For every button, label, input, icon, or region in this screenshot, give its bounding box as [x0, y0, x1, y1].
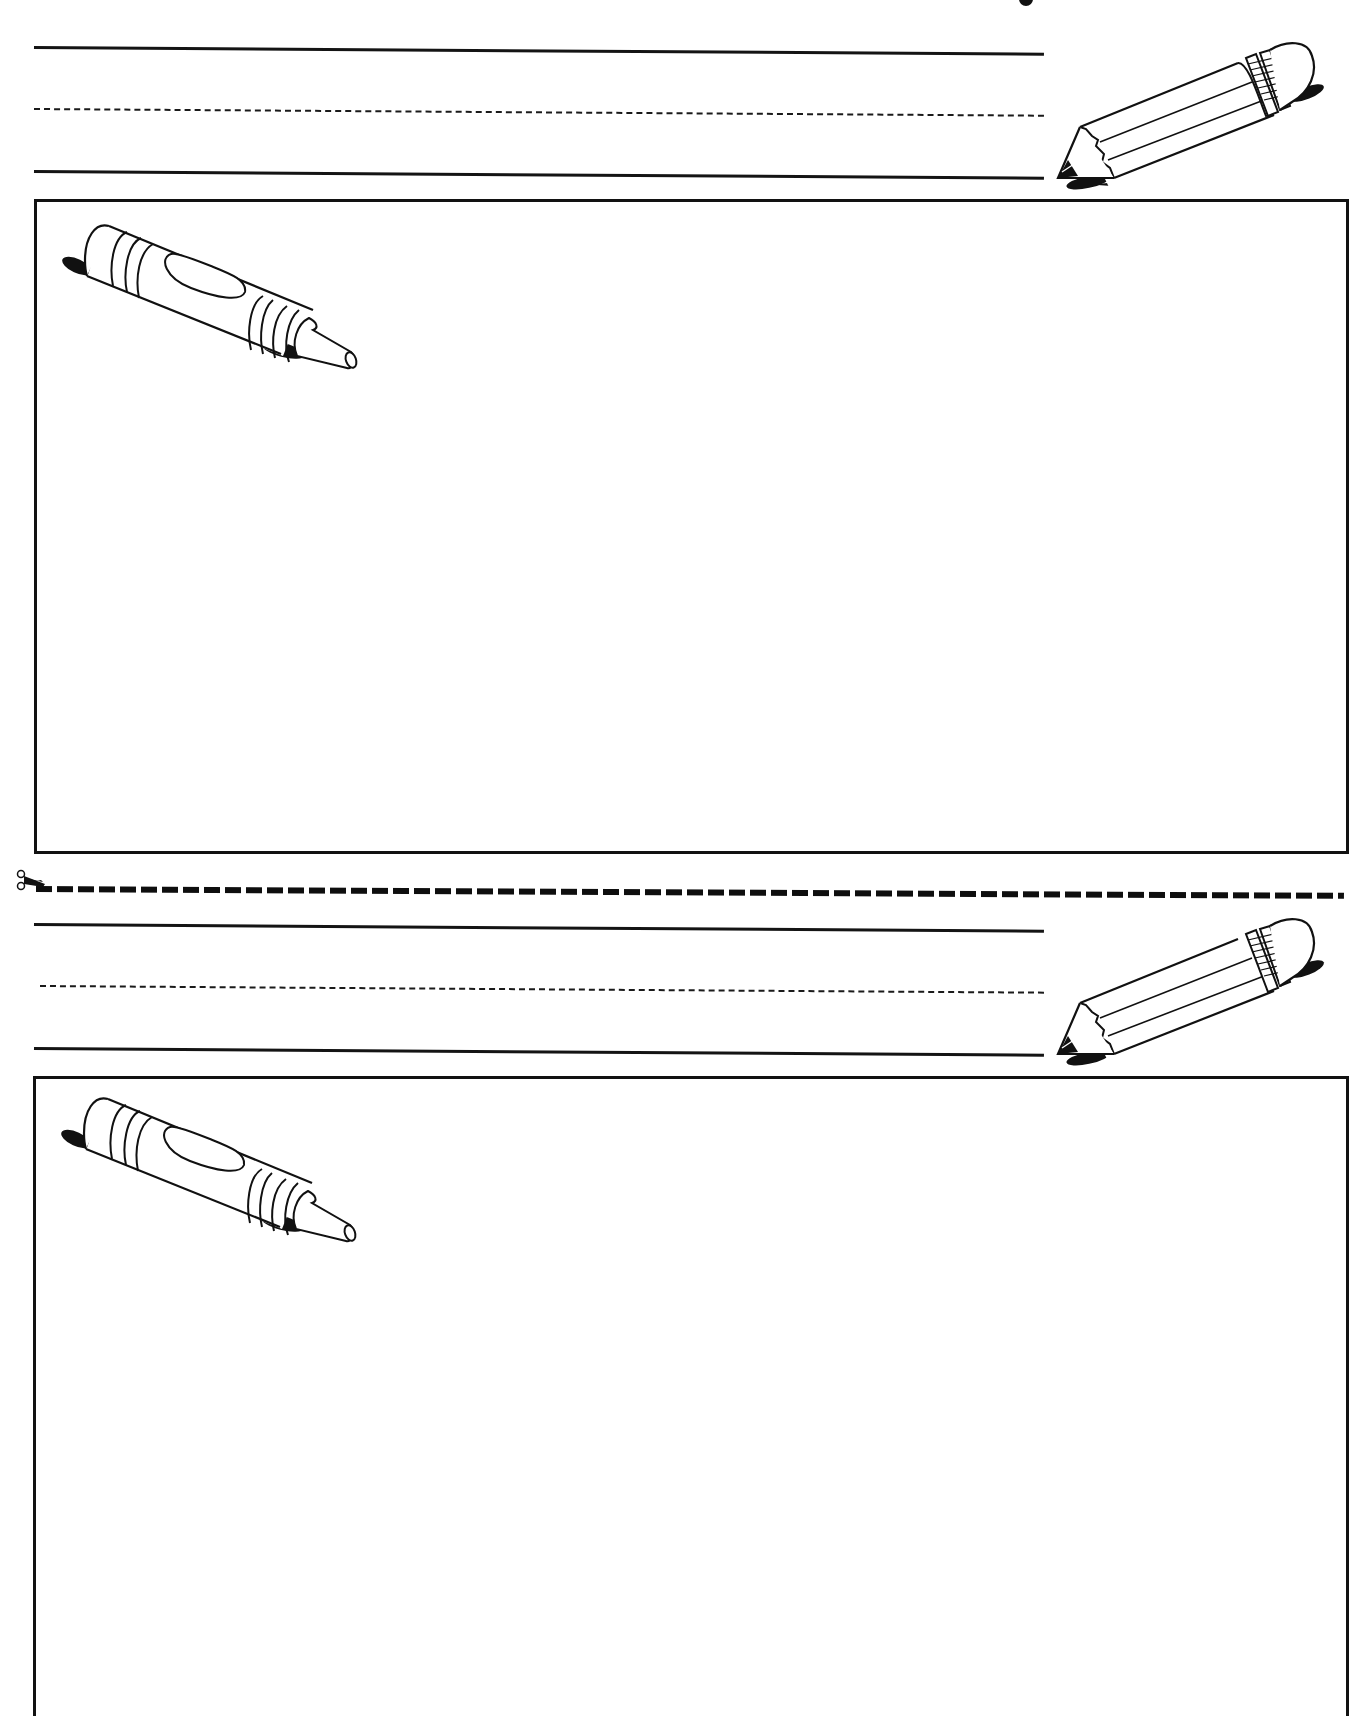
dashed-cut-line [36, 886, 1344, 899]
dashed-midline [34, 108, 1044, 117]
crayon-icon [51, 218, 371, 378]
drawing-box-1[interactable] [34, 199, 1349, 854]
baseline [34, 170, 1044, 180]
pencil-icon [1052, 36, 1352, 196]
pencil-icon [1052, 912, 1352, 1072]
baseline [34, 1047, 1044, 1057]
dashed-midline [40, 985, 1044, 994]
drawing-box-2[interactable] [33, 1076, 1349, 1716]
crayon-icon [50, 1091, 370, 1251]
top-solid-line [34, 923, 1044, 933]
cropped-glyph-dot [1019, 0, 1033, 6]
top-solid-line [34, 46, 1044, 56]
